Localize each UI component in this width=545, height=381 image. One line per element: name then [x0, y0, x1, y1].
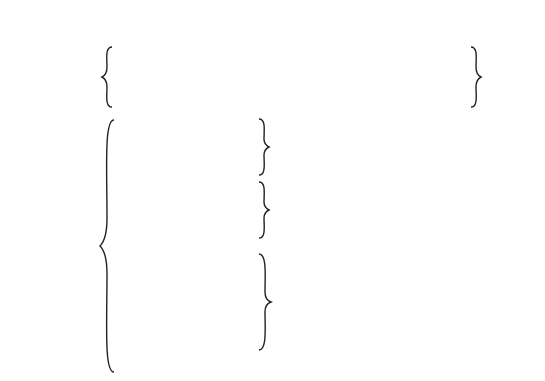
- threading-brace-icon: [100, 45, 114, 109]
- tieup-brace-icon: [469, 45, 483, 109]
- right-twill-brace-icon: [257, 180, 271, 240]
- draw-down-brace-icon: [98, 118, 116, 374]
- left-twill-brace-icon: [257, 117, 271, 177]
- zigzag-twill-brace-icon: [257, 252, 273, 352]
